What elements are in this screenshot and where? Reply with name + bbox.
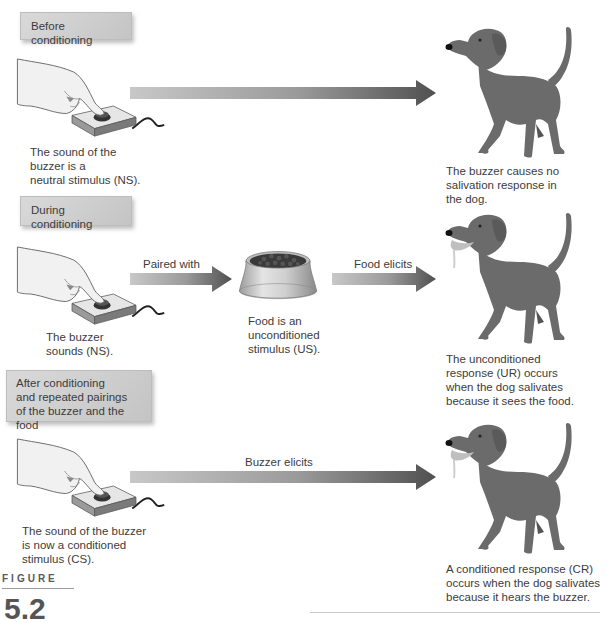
stage-label-during: During conditioning — [20, 196, 132, 226]
right-arrow-icon — [332, 266, 436, 292]
bottom-divider — [310, 612, 600, 613]
figure-word: FIGURE — [2, 573, 58, 584]
middle-caption-food: Food is an unconditioned stimulus (US). — [248, 314, 320, 356]
stimulus-caption-before: The sound of the buzzer is a neutral sti… — [30, 145, 141, 187]
right-arrow-icon — [130, 266, 232, 292]
dog-salivating-icon — [428, 206, 588, 346]
right-arrow-icon — [130, 464, 436, 490]
response-caption-after: A conditioned response (CR) occurs when … — [446, 562, 600, 604]
stage-label-before: Before conditioning — [20, 12, 132, 40]
figure-divider — [2, 588, 74, 589]
figure-number: 5.2 — [4, 594, 46, 623]
stimulus-caption-during: The buzzer sounds (NS). — [46, 330, 113, 358]
stage-label-after: After conditioning and repeated pairings… — [6, 370, 152, 422]
stage-label-text: During conditioning — [31, 204, 92, 230]
dog-salivating-icon — [428, 416, 588, 556]
right-arrow-icon — [130, 80, 436, 106]
food-bowl-icon — [232, 244, 324, 310]
response-caption-before: The buzzer causes no salivation response… — [446, 164, 559, 206]
response-caption-during: The unconditioned response (UR) occurs w… — [446, 352, 574, 408]
stage-label-text: Before conditioning — [31, 20, 92, 46]
stimulus-caption-after: The sound of the buzzer is now a conditi… — [22, 524, 146, 566]
dog-icon — [428, 20, 588, 160]
